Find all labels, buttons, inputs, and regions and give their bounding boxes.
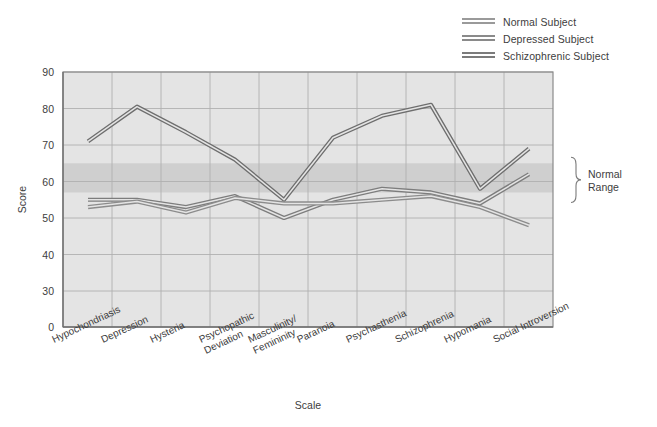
plot-area-wrapper: 908070605040300 HypochondriasisDepressio…: [0, 0, 657, 427]
y-tick-70: 70: [42, 139, 54, 151]
normal-range-label-line2: Range: [588, 181, 619, 193]
normal-range-brace: NormalRange: [571, 157, 622, 202]
y-tick-50: 50: [42, 212, 54, 224]
line-chart-svg: 908070605040300 HypochondriasisDepressio…: [0, 0, 657, 427]
y-axis-title: Score: [16, 186, 28, 214]
y-tick-90: 90: [42, 66, 54, 78]
y-tick-80: 80: [42, 103, 54, 115]
y-tick-40: 40: [42, 249, 54, 261]
y-tick-60: 60: [42, 176, 54, 188]
y-tick-0: 0: [48, 321, 54, 333]
y-axis-tick-labels: 908070605040300: [42, 66, 54, 333]
y-tick-30: 30: [42, 285, 54, 297]
chart-root: Normal Subject Depressed Subject Schizop…: [0, 0, 657, 427]
x-axis-title: Scale: [295, 399, 321, 411]
normal-range-label-line1: Normal: [588, 168, 622, 180]
